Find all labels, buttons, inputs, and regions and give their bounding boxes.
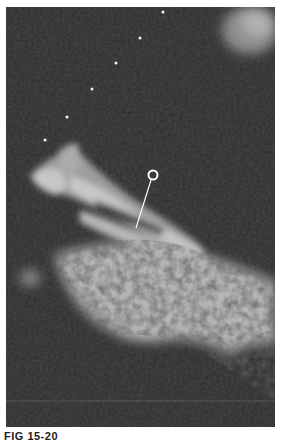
ultrasound-image xyxy=(6,7,275,427)
figure-caption: FIG 15-20 xyxy=(4,431,58,442)
ultrasound-scan-graphic xyxy=(6,7,275,427)
